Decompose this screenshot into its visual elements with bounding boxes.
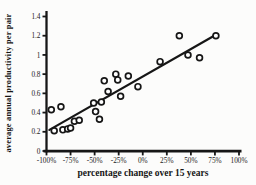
- x-tick-label: -75%: [63, 156, 79, 165]
- x-tick-label: 75%: [208, 156, 221, 165]
- x-tick-label: 0%: [138, 156, 148, 165]
- data-point: [58, 104, 64, 110]
- data-point: [68, 125, 74, 131]
- scatter-plot: 00.20.40.60.811.21.4-100%-75%-50%-25%0%2…: [0, 0, 256, 185]
- x-tick-label: -25%: [111, 156, 127, 165]
- y-axis-title: average annual productivity per pair: [4, 13, 13, 152]
- y-tick-label: 0.8: [31, 70, 40, 79]
- data-point: [97, 116, 103, 122]
- y-tick-label: 0.2: [31, 127, 40, 136]
- y-tick-label: 1.4: [31, 12, 40, 21]
- y-tick-label: 0.6: [31, 89, 40, 98]
- data-point: [157, 59, 163, 65]
- data-point: [51, 128, 57, 134]
- trend-line: [49, 35, 216, 130]
- data-point: [48, 107, 54, 113]
- data-point: [135, 84, 141, 90]
- x-tick-label: 100%: [230, 156, 247, 165]
- x-tick-label: 25%: [160, 156, 173, 165]
- data-point: [125, 73, 131, 79]
- data-point: [93, 109, 99, 115]
- data-point: [197, 55, 203, 61]
- y-tick-label: 0: [37, 147, 41, 156]
- x-tick-label: -50%: [87, 156, 103, 165]
- data-point: [101, 78, 107, 84]
- data-point: [76, 117, 82, 123]
- y-tick-label: 1: [37, 51, 41, 60]
- data-point: [98, 99, 104, 105]
- data-point: [213, 33, 219, 39]
- data-point: [91, 100, 97, 106]
- data-point: [185, 52, 191, 58]
- x-axis-title: percentage change over 15 years: [77, 168, 208, 178]
- x-tick-label: -100%: [37, 156, 56, 165]
- y-tick-label: 0.4: [31, 108, 40, 117]
- data-point: [118, 93, 124, 99]
- data-point: [115, 77, 121, 83]
- data-point: [176, 33, 182, 39]
- x-tick-label: 50%: [184, 156, 197, 165]
- data-layer: [48, 33, 218, 134]
- data-point: [105, 89, 111, 95]
- y-tick-label: 1.2: [31, 31, 40, 40]
- chart-page: 00.20.40.60.811.21.4-100%-75%-50%-25%0%2…: [0, 0, 256, 185]
